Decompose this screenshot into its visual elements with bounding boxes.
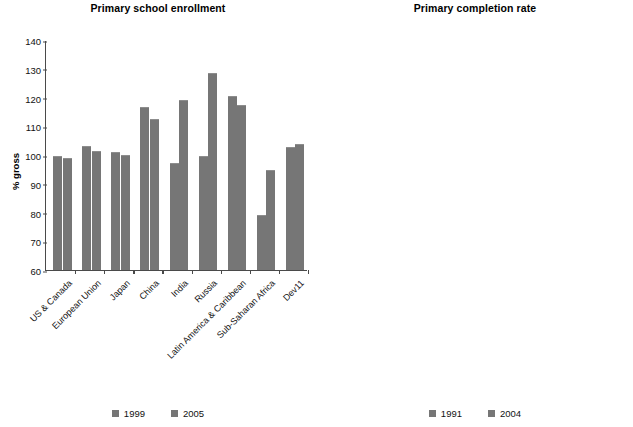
bar-group — [170, 41, 189, 270]
x-axis-label: Dev11 — [282, 278, 307, 303]
x-axis-label: Sub-Saharan Africa — [215, 278, 277, 340]
bar — [237, 105, 246, 270]
chart-title-right: Primary completion rate — [317, 2, 633, 14]
bar — [179, 100, 188, 270]
legend-left: 19992005 — [0, 408, 316, 419]
y-axis-tick: 110 — [26, 122, 46, 133]
legend-item: 1999 — [112, 408, 145, 419]
x-axis-tick — [221, 270, 222, 274]
legend-swatch-icon — [429, 410, 436, 417]
bar — [228, 96, 237, 270]
x-axis-tick — [250, 270, 251, 274]
x-axis-tick — [279, 270, 280, 274]
x-axis-label: Russia — [193, 278, 220, 305]
bar — [82, 146, 91, 270]
chart-title-left: Primary school enrollment — [0, 2, 316, 14]
legend-item: 1991 — [429, 408, 462, 419]
bar-group — [82, 41, 101, 270]
bar — [111, 152, 120, 270]
bar — [140, 107, 149, 270]
legend-item: 2004 — [488, 408, 521, 419]
chart-panel-primary-completion-rate: Primary completion rate % of relevant ag… — [317, 0, 633, 427]
y-axis-tick: 80 — [30, 208, 46, 219]
legend-right: 19912004 — [317, 408, 633, 419]
legend-item: 2005 — [171, 408, 204, 419]
bar — [295, 144, 304, 270]
x-axis-tick — [162, 270, 163, 274]
x-axis-tick — [192, 270, 193, 274]
bar-group — [228, 41, 247, 270]
x-axis-tick — [133, 270, 134, 274]
bar — [286, 147, 295, 270]
y-axis-label-left: % gross — [10, 153, 21, 190]
x-axis-tick — [75, 270, 76, 274]
y-axis-tick: 100 — [25, 151, 46, 162]
legend-label: 1999 — [124, 408, 145, 419]
x-axis-label: Japan — [107, 278, 131, 302]
bar — [199, 156, 208, 270]
y-axis-tick: 120 — [25, 93, 46, 104]
legend-label: 1991 — [441, 408, 462, 419]
x-axis-tick — [104, 270, 105, 274]
bar — [266, 170, 275, 270]
legend-swatch-icon — [112, 410, 119, 417]
x-axis-label: India — [169, 278, 190, 299]
bar-group — [199, 41, 218, 270]
bar-group — [286, 41, 305, 270]
legend-label: 2004 — [500, 408, 521, 419]
bar — [92, 151, 101, 270]
chart-panel-primary-school-enrollment: Primary school enrollment % gross US & C… — [0, 0, 316, 427]
y-axis-tick: 140 — [25, 36, 46, 47]
bar-group — [111, 41, 130, 270]
bar — [170, 163, 179, 270]
legend-swatch-icon — [171, 410, 178, 417]
bar-group — [140, 41, 159, 270]
legend-swatch-icon — [488, 410, 495, 417]
x-axis-label: China — [137, 278, 161, 302]
y-axis-tick: 90 — [30, 179, 46, 190]
x-axis-tick — [308, 270, 309, 274]
chart-page: Primary school enrollment % gross US & C… — [0, 0, 633, 427]
bar — [150, 119, 159, 270]
bar-group — [53, 41, 72, 270]
bar — [208, 73, 217, 270]
bar — [257, 215, 266, 270]
bar-group — [257, 41, 276, 270]
bar — [121, 155, 130, 270]
bar — [63, 158, 72, 270]
legend-label: 2005 — [183, 408, 204, 419]
y-axis-tick: 70 — [30, 237, 46, 248]
bar-series-left — [46, 41, 307, 270]
plot-area-left: US & CanadaEuropean UnionJapanChinaIndia… — [45, 41, 307, 271]
y-axis-tick: 60 — [30, 266, 46, 277]
y-axis-tick: 130 — [25, 64, 46, 75]
bar — [53, 156, 62, 270]
